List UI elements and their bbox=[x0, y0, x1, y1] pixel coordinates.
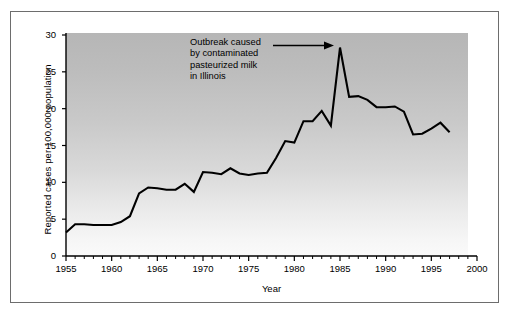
annotation-arrow-icon bbox=[273, 42, 334, 50]
annotation-line-4: in Illinois bbox=[190, 71, 261, 82]
outbreak-annotation: Outbreak caused by contaminated pasteuri… bbox=[190, 37, 261, 83]
y-tick-label: 5 bbox=[30, 214, 56, 224]
x-tick-label: 1995 bbox=[411, 264, 451, 274]
y-tick-label: 0 bbox=[30, 251, 56, 261]
x-axis-major-ticks bbox=[66, 256, 477, 261]
x-tick-label: 1985 bbox=[320, 264, 360, 274]
annotation-line-3: pasteurized milk bbox=[190, 60, 261, 71]
x-tick-label: 1965 bbox=[137, 264, 177, 274]
chart-figure: Reported cases per 100,000 population Ye… bbox=[0, 0, 511, 316]
annotation-line-1: Outbreak caused bbox=[190, 37, 261, 48]
x-tick-label: 1975 bbox=[229, 264, 269, 274]
x-tick-label: 1970 bbox=[183, 264, 223, 274]
y-tick-label: 20 bbox=[30, 104, 56, 114]
annotation-line-2: by contaminated bbox=[190, 48, 261, 59]
x-tick-label: 1990 bbox=[366, 264, 406, 274]
y-tick-label: 25 bbox=[30, 67, 56, 77]
x-tick-label: 1955 bbox=[46, 264, 86, 274]
y-tick-label: 10 bbox=[30, 177, 56, 187]
x-tick-label: 1960 bbox=[92, 264, 132, 274]
x-tick-label: 2000 bbox=[457, 264, 497, 274]
x-axis-title: Year bbox=[66, 283, 477, 294]
y-tick-label: 30 bbox=[30, 30, 56, 40]
x-tick-label: 1980 bbox=[274, 264, 314, 274]
y-tick-label: 15 bbox=[30, 141, 56, 151]
